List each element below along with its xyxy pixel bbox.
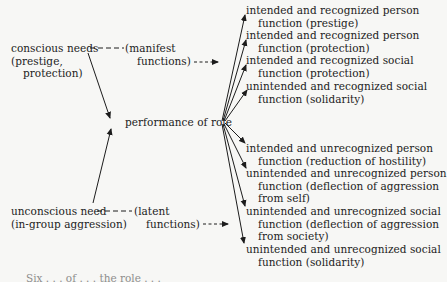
outcome-2: intended and recognized person function …	[246, 29, 419, 54]
latent-functions-label: (latent functions)	[134, 205, 200, 230]
outcome-1-line-1: intended and recognized person	[246, 4, 419, 17]
outcome-arrow-1	[222, 15, 245, 121]
latent-line-1: (latent	[134, 205, 200, 218]
outcome-8-line-1: unintended and unrecognized social	[246, 243, 441, 256]
outcome-6: unintended and unrecognized person funct…	[246, 167, 447, 205]
performance-of-role-label: performance of role	[125, 116, 232, 129]
latent-line-2: functions)	[134, 218, 200, 231]
outcome-4-line-1: unintended and recognized social	[246, 80, 427, 93]
outcome-arrow-7	[223, 124, 245, 206]
outcome-arrow-2	[223, 40, 246, 121]
outcome-7-line-3: from society)	[246, 230, 441, 243]
outcome-5-line-1: intended and unrecognized person	[246, 142, 433, 155]
unconscious-need-title: unconscious need	[11, 205, 127, 218]
conscious-needs-title: conscious needs	[11, 42, 98, 55]
outcome-3: intended and recognized social function …	[246, 54, 414, 79]
outcome-5-line-2: function (reduction of hostility)	[246, 155, 433, 168]
outcome-6-line-3: from self)	[246, 192, 447, 205]
conscious-needs-detail-1: (prestige,	[11, 55, 98, 68]
outcome-4: unintended and recognized social functio…	[246, 80, 427, 105]
outcome-7-line-1: unintended and unrecognized social	[246, 205, 441, 218]
manifest-line-2: functions)	[125, 55, 191, 68]
outcome-arrow-6	[224, 124, 246, 168]
outcome-8: unintended and unrecognized social funct…	[246, 243, 441, 268]
conscious-needs-detail-2: protection)	[11, 67, 98, 80]
outcome-1: intended and recognized person function …	[246, 4, 419, 29]
outcome-6-line-1: unintended and unrecognized person	[246, 167, 447, 180]
unconscious-need-detail: (in-group aggression)	[11, 218, 127, 231]
outcome-arrow-3	[224, 65, 246, 121]
conscious-needs-label: conscious needs (prestige, protection)	[11, 42, 98, 80]
outcome-1-line-2: function (prestige)	[246, 17, 419, 30]
outcome-2-line-1: intended and recognized person	[246, 29, 419, 42]
unconscious-to-role-arrow	[93, 129, 111, 203]
outcome-7: unintended and unrecognized social funct…	[246, 205, 441, 243]
unconscious-need-label: unconscious need (in-group aggression)	[11, 205, 127, 230]
manifest-functions-label: (manifest functions)	[125, 42, 191, 67]
outcome-3-line-1: intended and recognized social	[246, 54, 414, 67]
outcome-6-line-2: function (deflection of aggression	[246, 180, 447, 193]
figure-caption-partial: Six . . . of . . . the role . . .	[26, 272, 161, 282]
outcome-2-line-2: function (protection)	[246, 42, 419, 55]
outcome-7-line-2: function (deflection of aggression	[246, 218, 441, 231]
manifest-line-1: (manifest	[125, 42, 191, 55]
outcome-4-line-2: function (solidarity)	[246, 93, 427, 106]
outcome-8-line-2: function (solidarity)	[246, 256, 441, 269]
outcome-3-line-2: function (protection)	[246, 67, 414, 80]
outcome-5: intended and unrecognized person functio…	[246, 142, 433, 167]
